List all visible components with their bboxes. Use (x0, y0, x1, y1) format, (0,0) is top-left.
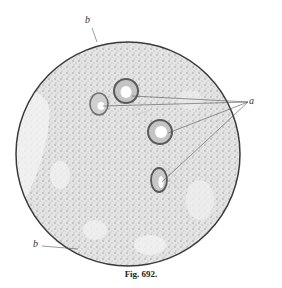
label-a: a (249, 95, 254, 106)
label-b-bottom: b (33, 238, 38, 249)
label-b-top: b (85, 14, 90, 25)
figure-caption: Fig. 692. (0, 269, 282, 279)
microscope-field-illustration (0, 0, 282, 288)
